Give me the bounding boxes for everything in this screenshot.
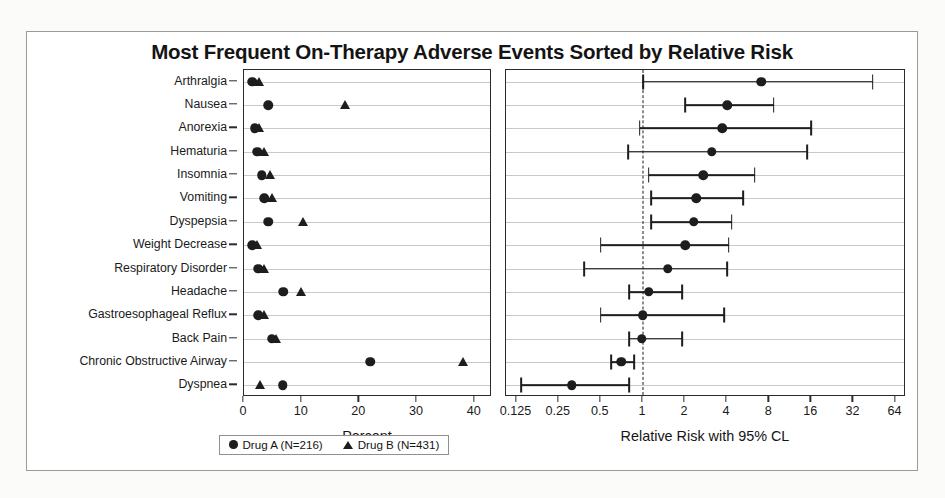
- confidence-interval-cap-upper: [731, 214, 733, 229]
- gridline: [244, 82, 490, 83]
- legend-item: Drug B (N=431): [343, 438, 440, 451]
- category-tick: [229, 220, 237, 221]
- axis-tick-label: 30: [409, 404, 423, 418]
- reference-line: [642, 70, 643, 395]
- category-label: Dyspnea: [178, 377, 227, 391]
- confidence-interval-cap-lower: [639, 121, 641, 136]
- gridline: [244, 175, 490, 176]
- marker-drug-a: [366, 357, 376, 367]
- confidence-interval-line: [601, 244, 729, 246]
- confidence-interval-cap-upper: [723, 308, 725, 323]
- axis-tick: [242, 396, 243, 402]
- gridline: [244, 245, 490, 246]
- relative-risk-point: [567, 381, 577, 391]
- confidence-interval-cap-lower: [684, 98, 686, 113]
- axis-tick: [358, 396, 359, 402]
- axis-tick: [810, 396, 811, 402]
- marker-drug-b: [255, 380, 265, 389]
- axis-tick: [300, 396, 301, 402]
- axis-tick-label: 8: [765, 404, 772, 418]
- category-tick: [229, 290, 237, 291]
- axis-tick-label: 64: [888, 404, 902, 418]
- category-label: Headache: [171, 284, 227, 298]
- relative-risk-point: [722, 100, 732, 110]
- confidence-interval-cap-lower: [600, 238, 602, 253]
- category-tick: [229, 360, 237, 361]
- confidence-interval-cap-upper: [681, 284, 683, 299]
- confidence-interval-cap-lower: [610, 354, 612, 369]
- confidence-interval-cap-upper: [811, 121, 813, 136]
- axis-tick-label: 0.125: [500, 404, 532, 418]
- confidence-interval-cap-upper: [629, 378, 631, 393]
- marker-drug-b: [271, 334, 281, 343]
- gridline: [244, 269, 490, 270]
- axis-tick: [473, 396, 474, 402]
- legend-label: Drug B (N=431): [358, 438, 440, 451]
- confidence-interval-cap-upper: [681, 331, 683, 346]
- confidence-interval-cap-lower: [642, 74, 644, 89]
- axis-tick-label: 0.25: [545, 404, 570, 418]
- category-tick: [229, 103, 237, 104]
- gridline: [506, 362, 904, 363]
- axis-tick-label: 32: [845, 404, 859, 418]
- gridline: [506, 339, 904, 340]
- axis-tick-label: 0.5: [591, 404, 609, 418]
- confidence-interval-cap-lower: [583, 261, 585, 276]
- axis-tick-label: 2: [681, 404, 688, 418]
- confidence-interval-cap-lower: [629, 331, 631, 346]
- confidence-interval-cap-upper: [872, 74, 874, 89]
- gridline: [244, 222, 490, 223]
- gridline: [244, 128, 490, 129]
- marker-drug-b: [259, 147, 269, 156]
- gridline: [244, 198, 490, 199]
- category-tick: [229, 80, 237, 81]
- marker-drug-a: [263, 100, 273, 110]
- category-label: Insomnia: [177, 167, 227, 181]
- axis-tick: [557, 396, 558, 402]
- percent-panel: [243, 69, 491, 396]
- marker-drug-a: [278, 287, 288, 297]
- legend-item: Drug A (N=216): [229, 438, 323, 451]
- confidence-interval-cap-lower: [520, 378, 522, 393]
- relative-risk-point: [637, 334, 647, 344]
- confidence-interval-cap-lower: [627, 144, 629, 159]
- category-label: Weight Decrease: [133, 237, 227, 251]
- axis-tick-label: 40: [467, 404, 481, 418]
- category-tick: [229, 243, 237, 244]
- relative-risk-point: [707, 147, 717, 157]
- axis-tick: [515, 396, 516, 402]
- confidence-interval-cap-upper: [742, 191, 744, 206]
- relative-risk-point: [644, 287, 654, 297]
- category-label: Anorexia: [178, 120, 227, 134]
- marker-drug-b: [254, 123, 264, 132]
- marker-drug-b: [254, 77, 264, 86]
- relative-risk-point: [616, 357, 626, 367]
- axis-tick: [683, 396, 684, 402]
- confidence-interval-cap-lower: [600, 308, 602, 323]
- category-tick: [229, 384, 237, 385]
- confidence-interval-cap-upper: [773, 98, 775, 113]
- confidence-interval-cap-lower: [651, 191, 653, 206]
- marker-drug-b: [340, 100, 350, 109]
- category-label: Chronic Obstructive Airway: [79, 354, 227, 368]
- confidence-interval-cap-lower: [651, 214, 653, 229]
- marker-drug-b: [259, 310, 269, 319]
- marker-drug-a: [278, 381, 288, 391]
- axis-tick: [768, 396, 769, 402]
- axis-tick: [641, 396, 642, 402]
- triangle-marker-icon: [343, 441, 353, 449]
- relative-risk-point: [691, 194, 701, 204]
- relative-risk-point: [680, 240, 690, 250]
- relative-risk-panel: [505, 69, 905, 396]
- confidence-interval-cap-lower: [648, 168, 650, 183]
- confidence-interval-line: [628, 151, 808, 153]
- category-label: Vomiting: [180, 190, 227, 204]
- axis-title: Relative Risk with 95% CL: [621, 428, 790, 444]
- category-label: Nausea: [185, 97, 227, 111]
- axis-tick: [894, 396, 895, 402]
- marker-drug-b: [296, 287, 306, 296]
- axis-tick-label: 16: [803, 404, 817, 418]
- figure-frame: Most Frequent On-Therapy Adverse Events …: [26, 31, 918, 471]
- gridline: [244, 105, 490, 106]
- relative-risk-point: [663, 264, 673, 274]
